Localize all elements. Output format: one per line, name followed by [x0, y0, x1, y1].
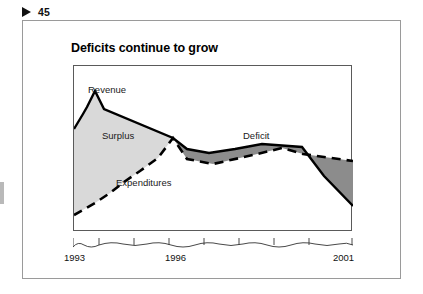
surplus-area-fill — [74, 91, 173, 215]
x-axis-wavy-baseline — [73, 236, 353, 252]
page-edge-mark — [0, 182, 4, 204]
x-axis-tick-label-2001: 2001 — [333, 253, 354, 263]
x-axis-tick-label-1993: 1993 — [64, 253, 85, 263]
page-marker: 45 — [22, 4, 50, 20]
annotation-expenditures: Expenditures — [116, 178, 171, 188]
page-number: 45 — [38, 7, 50, 18]
chart-title: Deficits continue to grow — [71, 41, 218, 55]
annotation-revenue: Revenue — [88, 85, 126, 95]
deficit-area-fill — [173, 138, 353, 206]
annotation-surplus: Surplus — [102, 131, 134, 141]
x-axis-tick-label-1996: 1996 — [165, 253, 186, 263]
annotation-deficit: Deficit — [243, 131, 269, 141]
triangle-right-icon — [22, 7, 31, 17]
